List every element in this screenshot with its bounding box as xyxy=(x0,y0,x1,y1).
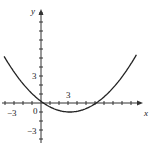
x-axis-label: x xyxy=(143,108,148,118)
x-tick-label-3: 3 xyxy=(66,90,71,100)
parabola-graph: x y 0 −3 3 3 −3 xyxy=(0,0,153,146)
y-axis-label: y xyxy=(30,6,35,16)
y-axis-arrow-icon xyxy=(39,9,44,15)
y-tick-label-3: 3 xyxy=(32,71,37,81)
origin-label: 0 xyxy=(33,106,38,116)
x-tick-label-neg3: −3 xyxy=(7,108,17,118)
y-tick-label-neg3: −3 xyxy=(27,126,37,136)
x-axis-arrow-icon xyxy=(137,101,143,106)
